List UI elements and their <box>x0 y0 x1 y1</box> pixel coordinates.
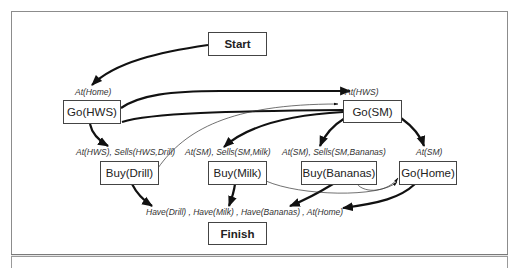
node-buy-drill: Buy(Drill) <box>100 161 159 185</box>
node-go-home: Go(Home) <box>399 161 457 185</box>
node-go-hws: Go(HWS) <box>63 100 121 124</box>
node-buy-bananas: Buy(Bananas) <box>301 161 377 185</box>
edge-start-gohws <box>92 45 208 85</box>
edge-buydrill-finish <box>132 184 152 206</box>
edge-gosm-buymilk <box>224 112 343 147</box>
node-buy-milk: Buy(Milk) <box>208 161 267 185</box>
edge-gosm-buybananas <box>320 118 345 146</box>
edge-gohome-finish <box>343 184 415 208</box>
precondition-go-sm: At(HWS) <box>345 87 379 97</box>
precondition-buy-bananas: At(SM), Sells(SM,Bananas) <box>282 147 386 157</box>
precondition-go-home: At(SM) <box>416 147 442 157</box>
precondition-buy-milk: At(SM), Sells(SM,Milk) <box>185 147 270 157</box>
precondition-buy-drill: At(HWS), Sells(HWS,Drill) <box>76 147 175 157</box>
edge-gohws-buydrill <box>90 124 108 146</box>
node-finish: Finish <box>208 222 267 245</box>
edge-gosm-gohome <box>401 118 424 146</box>
precondition-go-hws: At(Home) <box>75 87 111 97</box>
edge-gohws-gosm <box>121 91 350 108</box>
precondition-finish: Have(Drill) , Have(Milk) , Have(Bananas)… <box>146 207 343 217</box>
edge-buybananas-finish <box>290 184 333 206</box>
edge-buymilk-finish <box>229 184 235 206</box>
node-go-sm: Go(SM) <box>343 100 402 123</box>
plan-diagram: Start At(Home) Go(HWS) At(HWS) Go(SM) At… <box>0 0 521 268</box>
node-start: Start <box>208 32 267 56</box>
